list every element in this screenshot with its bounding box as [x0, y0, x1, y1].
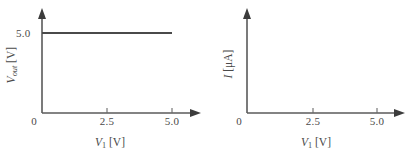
y-axis-arrow-icon — [38, 8, 46, 19]
chart-panel-right: 0 2.5 5.0 V1 [V] I [μA] — [209, 0, 418, 162]
x-axis-arrow-icon — [190, 109, 201, 117]
x-axis-title-sub: 1 — [102, 141, 106, 150]
x-axis-title: V1 [V] — [95, 136, 125, 150]
x-axis-title: V1 [V] — [301, 136, 331, 150]
y-axis-title: Vout [V] — [5, 35, 19, 95]
x-tick-label-2-5: 2.5 — [306, 115, 320, 127]
x-axis-title-sub: 1 — [308, 141, 312, 150]
x-axis-title-unit: [V] — [315, 136, 331, 148]
y-axis-arrow-icon — [243, 8, 251, 19]
x-axis-arrow-icon — [394, 109, 405, 117]
y-axis-title-unit: [V] — [5, 47, 17, 63]
x-axis-title-var: V — [95, 136, 102, 148]
x-tick-label-0: 0 — [236, 115, 242, 127]
x-tick-label-5-0: 5.0 — [370, 115, 384, 127]
x-tick-label-2-5: 2.5 — [100, 115, 114, 127]
x-axis-title-var: V — [301, 136, 308, 148]
y-axis-title-unit: [μA] — [222, 50, 234, 72]
x-tick-label-5-0: 5.0 — [165, 115, 179, 127]
y-axis-title-var: I — [222, 75, 234, 79]
chart-panel-left: 5.0 0 2.5 5.0 V1 [V] Vout [V] — [0, 0, 209, 162]
x-axis-title-unit: [V] — [109, 136, 125, 148]
y-axis-title-var: V — [5, 76, 17, 83]
y-axis-title-sub: out — [10, 66, 19, 77]
figure-canvas: 5.0 0 2.5 5.0 V1 [V] Vout [V] 0 2.5 5.0 … — [0, 0, 418, 162]
y-axis-title: I [μA] — [222, 34, 234, 94]
x-tick-label-0: 0 — [31, 115, 37, 127]
